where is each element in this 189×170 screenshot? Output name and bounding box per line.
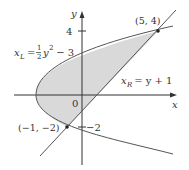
svg-text:1: 1 [37, 44, 41, 52]
point-label-upper: (5, 4) [135, 15, 161, 26]
area-between-curves-diagram: y x 0 4 −2 (5, 4) (−1, −2) x L = 1 2 y 2… [0, 0, 189, 170]
x-axis-label: x [172, 99, 178, 110]
point-label-lower: (−1, −2) [18, 122, 59, 133]
origin-label: 0 [72, 98, 78, 109]
intersection-point-lower [65, 125, 69, 129]
right-curve-label: x R = y + 1 [121, 75, 172, 89]
tick-label-4: 4 [66, 26, 72, 37]
x-axis-arrow-icon [170, 93, 177, 98]
svg-text:− 3: − 3 [53, 47, 74, 58]
svg-text:=: = [27, 47, 35, 58]
svg-text:= y + 1: = y + 1 [131, 75, 172, 86]
y-axis-arrow-icon [80, 11, 85, 18]
svg-text:L: L [19, 53, 25, 61]
y-axis-label: y [70, 8, 77, 19]
tick-label-neg2: −2 [86, 122, 101, 133]
svg-text:2: 2 [37, 53, 41, 61]
intersection-point-upper [156, 29, 160, 33]
left-curve-label: x L = 1 2 y 2 − 3 [14, 44, 74, 61]
svg-text:y: y [42, 47, 49, 58]
